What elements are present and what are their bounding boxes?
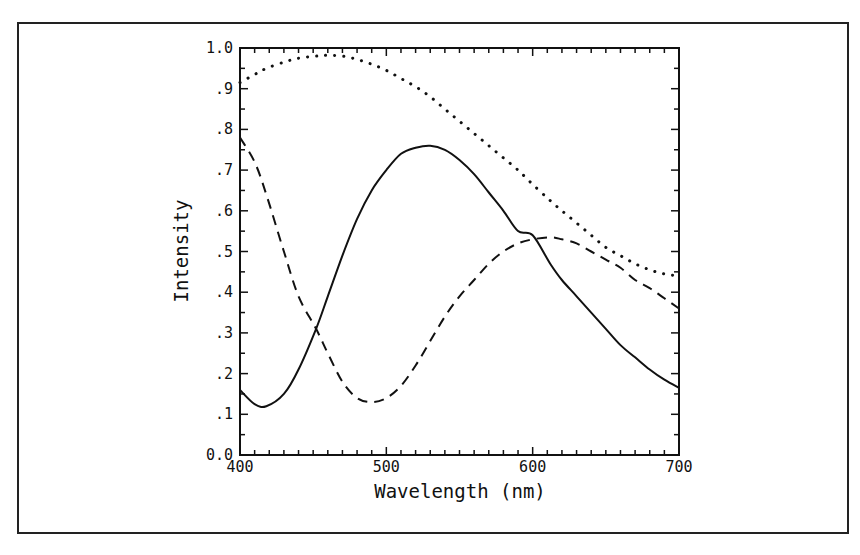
x-axis-tick-labels: 400500600700 (226, 458, 692, 476)
y-tick-label: .6 (215, 202, 233, 220)
y-tick-label: .5 (215, 243, 233, 261)
x-axis-title: Wavelength (nm) (374, 480, 546, 502)
y-tick-label: .1 (215, 405, 233, 423)
y-tick-label: .8 (215, 120, 233, 138)
y-tick-label: .9 (215, 80, 233, 98)
y-axis-title: Intensity (170, 200, 192, 303)
y-tick-label: 1.0 (206, 39, 233, 57)
y-axis-tick-labels: 0.0.1.2.3.4.5.6.7.8.91.0 (206, 39, 233, 464)
y-tick-label: .7 (215, 161, 233, 179)
x-tick-label: 700 (665, 458, 692, 476)
y-tick-label: .2 (215, 365, 233, 383)
x-tick-label: 400 (226, 458, 253, 476)
series-dotted-line (240, 55, 679, 276)
chart: 0.0.1.2.3.4.5.6.7.8.91.0 400500600700 Wa… (0, 0, 860, 555)
series-layer (240, 55, 679, 407)
x-tick-label: 600 (519, 458, 546, 476)
series-solid-line (240, 146, 679, 407)
y-tick-label: .4 (215, 283, 233, 301)
series-dashed-line (240, 138, 679, 403)
x-tick-label: 500 (373, 458, 400, 476)
y-tick-label: .3 (215, 324, 233, 342)
